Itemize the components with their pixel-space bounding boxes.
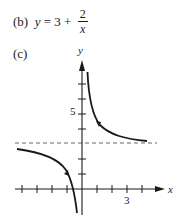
x-tick-label-3: 3	[124, 194, 130, 206]
curve-left-branch	[17, 149, 77, 213]
y-axis-arrow-icon	[79, 60, 85, 71]
x-axis-arrow-icon	[155, 186, 165, 192]
y-axis-label: y	[77, 44, 83, 56]
curve-right-branch	[88, 72, 148, 141]
graph: x y 3 5	[0, 0, 183, 221]
y-tick-label-5: 5	[70, 105, 76, 117]
x-axis-label: x	[167, 183, 173, 195]
